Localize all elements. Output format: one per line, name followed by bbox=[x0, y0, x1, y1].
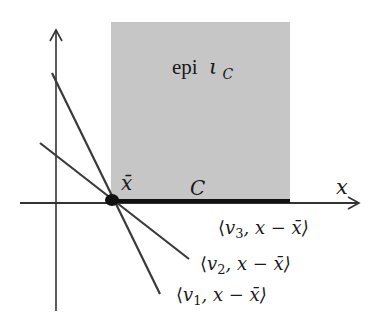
epigraph-label-sub: C bbox=[222, 66, 233, 82]
label-sub: 3 bbox=[235, 226, 243, 241]
epigraph-diagram: epi ι C x̄ C x ⟨v3, x − x̄⟩ ⟨v2, x − x̄⟩… bbox=[0, 0, 381, 330]
label-var: v bbox=[225, 217, 235, 238]
line-label-v2: ⟨v2, x − x̄⟩ bbox=[200, 253, 291, 277]
label-rest: , x − x̄⟩ bbox=[225, 253, 290, 274]
label-var: v bbox=[183, 284, 193, 305]
x-axis-label: x bbox=[336, 175, 348, 199]
line-label-v3: ⟨v3, x − x̄⟩ bbox=[218, 217, 309, 241]
set-label: C bbox=[190, 176, 205, 200]
label-open-bracket: ⟨ bbox=[218, 217, 225, 238]
point-label: x̄ bbox=[121, 171, 132, 195]
epigraph-label-main: epi bbox=[172, 55, 198, 79]
label-var: v bbox=[207, 253, 217, 274]
epigraph-label-symbol: ι bbox=[209, 55, 217, 79]
label-open-bracket: ⟨ bbox=[200, 253, 207, 274]
epigraph-region bbox=[111, 22, 290, 201]
line-label-v1: ⟨v1, x − x̄⟩ bbox=[176, 284, 267, 308]
label-rest: , x − x̄⟩ bbox=[201, 284, 266, 305]
point-x-bar bbox=[105, 194, 119, 206]
label-sub: 1 bbox=[193, 293, 201, 308]
label-rest: , x − x̄⟩ bbox=[243, 217, 308, 238]
label-sub: 2 bbox=[217, 262, 225, 277]
label-open-bracket: ⟨ bbox=[176, 284, 183, 305]
y-axis bbox=[50, 30, 62, 311]
